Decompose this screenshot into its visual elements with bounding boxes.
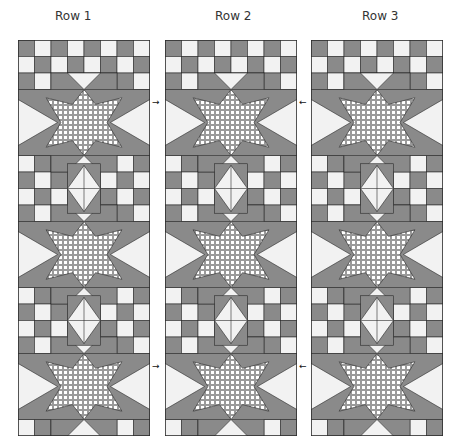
quilt-row-2 — [165, 40, 297, 436]
arrow-right-icon: → — [152, 98, 160, 107]
row-1-label: Row 1 — [55, 9, 91, 23]
arrow-right-icon: → — [152, 362, 160, 371]
arrow-left-icon: ← — [299, 98, 307, 107]
arrow-left-icon: ← — [299, 362, 307, 371]
row-2-label: Row 2 — [215, 9, 251, 23]
quilt-row-3 — [311, 40, 443, 436]
quilt-row-1 — [18, 40, 150, 436]
row-3-label: Row 3 — [362, 9, 398, 23]
